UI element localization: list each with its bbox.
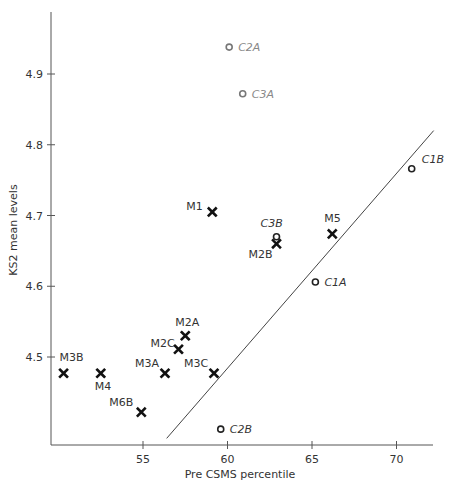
data-point-m1: M1 — [186, 200, 216, 216]
x-tick-label: 70 — [390, 453, 404, 466]
data-point-m4: M4 — [95, 370, 112, 394]
point-label: M6B — [109, 396, 133, 409]
y-tick-label: 4.6 — [26, 280, 44, 293]
data-point-c2b: C2B — [218, 423, 252, 436]
cross-marker-icon — [182, 332, 189, 339]
cross-marker-icon — [209, 208, 216, 215]
data-point-m2c: M2C — [150, 337, 182, 353]
circle-marker-icon — [218, 426, 224, 432]
data-point-c1b: C1B — [409, 153, 444, 172]
cross-marker-icon — [138, 409, 145, 416]
cross-marker-icon — [210, 370, 217, 377]
data-point-m5: M5 — [324, 212, 341, 238]
reference-line-segment — [167, 131, 434, 439]
point-label: M5 — [324, 212, 341, 225]
circle-marker-icon — [240, 91, 246, 97]
circle-marker-icon — [409, 166, 415, 172]
point-label: M3A — [135, 357, 159, 370]
scatter-chart: 4.54.64.74.84.955606570 M1M2AM2BM2CM3AM3… — [0, 0, 453, 489]
data-point-m6b: M6B — [109, 396, 145, 416]
data-point-m2a: M2A — [175, 316, 199, 340]
point-label: C2A — [238, 41, 260, 54]
circle-marker-icon — [274, 234, 280, 240]
point-label: M2B — [249, 248, 273, 261]
y-tick-label: 4.7 — [26, 210, 44, 223]
point-label: C1B — [422, 153, 444, 166]
point-label: C1A — [324, 276, 346, 289]
data-point-c2a: C2A — [226, 41, 260, 54]
axes: 4.54.64.74.84.955606570 — [26, 12, 434, 466]
circle-marker-icon — [226, 44, 232, 50]
cross-marker-icon — [60, 370, 67, 377]
y-tick-label: 4.8 — [26, 139, 44, 152]
reference-line — [167, 131, 434, 439]
point-label: M1 — [186, 200, 203, 213]
circle-marker-icon — [312, 279, 318, 285]
data-point-c1a: C1A — [312, 276, 346, 289]
point-label: M2C — [150, 337, 174, 350]
point-label: C2B — [230, 423, 252, 436]
point-label: M4 — [95, 380, 112, 393]
x-axis-title: Pre CSMS percentile — [185, 468, 296, 481]
y-axis-title: KS2 mean levels — [7, 184, 20, 276]
cross-marker-icon — [329, 230, 336, 237]
data-points: M1M2AM2BM2CM3AM3BM3CM4M5M6BC1AC1BC2AC2BC… — [60, 41, 444, 436]
data-point-m2b: M2B — [249, 240, 281, 260]
data-point-m3b: M3B — [60, 351, 84, 377]
data-point-m3c: M3C — [184, 357, 218, 377]
y-tick-label: 4.9 — [26, 68, 44, 81]
point-label: M3B — [60, 351, 84, 364]
point-label: M2A — [175, 316, 199, 329]
cross-marker-icon — [273, 240, 280, 247]
data-point-c3b: C3B — [261, 217, 283, 240]
point-label: C3B — [261, 217, 283, 230]
data-point-c3a: C3A — [240, 88, 274, 101]
data-point-m3a: M3A — [135, 357, 169, 377]
cross-marker-icon — [161, 370, 168, 377]
point-label: M3C — [184, 357, 208, 370]
x-tick-label: 55 — [136, 453, 150, 466]
point-label: C3A — [252, 88, 274, 101]
y-tick-label: 4.5 — [26, 351, 44, 364]
x-tick-label: 60 — [221, 453, 235, 466]
x-tick-label: 65 — [305, 453, 319, 466]
cross-marker-icon — [97, 370, 104, 377]
cross-marker-icon — [175, 346, 182, 353]
